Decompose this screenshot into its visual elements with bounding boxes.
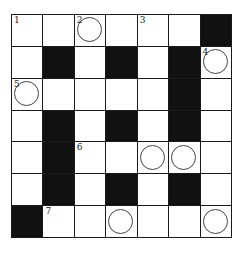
answer-cell[interactable]: 5 — [12, 79, 42, 110]
answer-cell[interactable] — [43, 79, 73, 110]
answer-cell[interactable] — [75, 206, 105, 237]
answer-cell[interactable] — [138, 142, 168, 173]
circle-marker-icon — [171, 145, 196, 170]
circle-marker-icon — [203, 49, 228, 74]
clue-number: 7 — [45, 207, 51, 216]
black-square — [12, 206, 42, 237]
black-square — [169, 174, 199, 205]
answer-cell[interactable] — [138, 47, 168, 78]
answer-cell[interactable] — [75, 174, 105, 205]
answer-cell[interactable]: 6 — [75, 142, 105, 173]
circle-marker-icon — [203, 209, 228, 234]
answer-cell[interactable] — [43, 15, 73, 46]
black-square — [169, 111, 199, 142]
answer-cell[interactable] — [12, 111, 42, 142]
answer-cell[interactable]: 1 — [12, 15, 42, 46]
crossword-grid: 1234567 — [11, 14, 232, 238]
black-square — [106, 111, 136, 142]
black-square — [43, 47, 73, 78]
black-square — [106, 174, 136, 205]
black-square — [169, 79, 199, 110]
answer-cell[interactable] — [138, 111, 168, 142]
answer-cell[interactable] — [106, 79, 136, 110]
answer-cell[interactable] — [201, 142, 231, 173]
answer-cell[interactable] — [12, 174, 42, 205]
answer-cell[interactable] — [138, 79, 168, 110]
clue-number: 1 — [14, 16, 20, 25]
answer-cell[interactable] — [106, 142, 136, 173]
answer-cell[interactable] — [75, 111, 105, 142]
answer-cell[interactable] — [12, 47, 42, 78]
answer-cell[interactable] — [138, 174, 168, 205]
black-square — [43, 142, 73, 173]
answer-cell[interactable]: 2 — [75, 15, 105, 46]
answer-cell[interactable] — [138, 206, 168, 237]
answer-cell[interactable] — [201, 174, 231, 205]
circle-marker-icon — [140, 145, 165, 170]
answer-cell[interactable]: 4 — [201, 47, 231, 78]
black-square — [43, 111, 73, 142]
black-square — [43, 174, 73, 205]
answer-cell[interactable] — [106, 206, 136, 237]
answer-cell[interactable]: 3 — [138, 15, 168, 46]
black-square — [169, 47, 199, 78]
answer-cell[interactable] — [201, 111, 231, 142]
answer-cell[interactable] — [169, 15, 199, 46]
circle-marker-icon — [14, 81, 39, 106]
answer-cell[interactable] — [12, 142, 42, 173]
answer-cell[interactable] — [201, 206, 231, 237]
black-square — [106, 47, 136, 78]
black-square — [201, 15, 231, 46]
clue-number: 6 — [77, 143, 83, 152]
answer-cell[interactable] — [75, 47, 105, 78]
clue-number: 3 — [140, 16, 146, 25]
circle-marker-icon — [77, 17, 102, 42]
answer-cell[interactable] — [106, 15, 136, 46]
answer-cell[interactable] — [201, 79, 231, 110]
answer-cell[interactable] — [169, 206, 199, 237]
answer-cell[interactable] — [75, 79, 105, 110]
circle-marker-icon — [108, 209, 133, 234]
answer-cell[interactable] — [169, 142, 199, 173]
answer-cell[interactable]: 7 — [43, 206, 73, 237]
